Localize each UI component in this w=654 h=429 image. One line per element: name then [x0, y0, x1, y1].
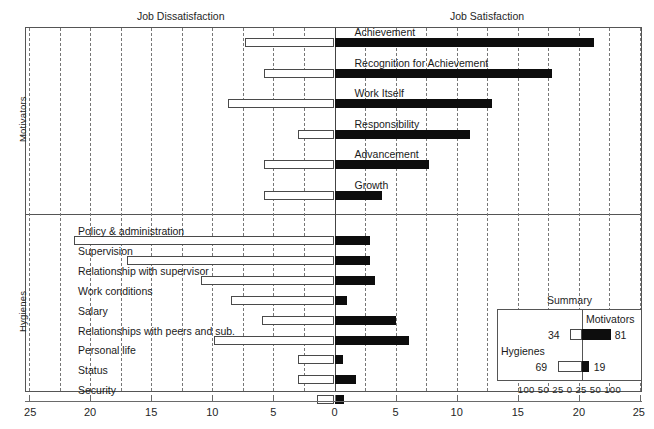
gridline [121, 28, 122, 391]
summary-bar-hygienes-satisfaction [582, 361, 589, 372]
x-axis-tick [396, 395, 397, 401]
bar-category-label: Advancement [355, 148, 419, 160]
bar-category-label: Work conditions [78, 285, 153, 297]
summary-scale-labels: 100 50 25 0 25 50 100 [518, 384, 622, 395]
bar-satisfaction [335, 276, 375, 285]
x-axis-tick [335, 395, 336, 401]
x-axis-tick-label: 5 [270, 406, 276, 418]
x-axis-line [25, 401, 642, 402]
gridline [29, 28, 30, 391]
bar-satisfaction [335, 355, 344, 364]
x-axis-tick-label: 5 [393, 406, 399, 418]
bar-satisfaction [335, 236, 370, 245]
bar-satisfaction [335, 316, 396, 325]
bar-category-label: Policy & administration [78, 225, 184, 237]
bar-dissatisfaction [317, 395, 334, 404]
summary-value-hygienes-satisfaction: 19 [594, 361, 606, 373]
x-axis-tick-label: 15 [512, 406, 524, 418]
x-axis-tick-label: 10 [206, 406, 218, 418]
x-axis-tick-label: 20 [84, 406, 96, 418]
bar-dissatisfaction [298, 130, 335, 139]
x-axis-tick-label: 10 [451, 406, 463, 418]
gridline [487, 28, 488, 391]
summary-value-motivators-dissatisfaction: 34 [548, 329, 560, 341]
x-axis-tick-label: 25 [24, 406, 36, 418]
bar-dissatisfaction [298, 375, 335, 384]
bar-category-label: Status [78, 364, 108, 376]
x-axis-tick [29, 395, 30, 401]
bar-dissatisfaction [127, 256, 335, 265]
bar-dissatisfaction [74, 236, 334, 245]
gridline [457, 28, 458, 391]
gridline [182, 28, 183, 391]
gridline [426, 28, 427, 391]
bar-satisfaction [335, 395, 345, 404]
bar-category-label: Recognition for Achievement [355, 57, 489, 69]
bar-satisfaction [335, 38, 594, 47]
bar-category-label: Supervision [78, 245, 133, 257]
bar-satisfaction [335, 130, 471, 139]
bar-category-label: Growth [355, 179, 389, 191]
x-axis-tick-label: 25 [633, 406, 645, 418]
bar-satisfaction [335, 69, 553, 78]
chart-root: Job DissatisfactionJob SatisfactionMotiv… [0, 0, 654, 429]
x-axis-tick [640, 395, 641, 401]
summary-label-hygienes: Hygienes [501, 345, 545, 357]
bar-satisfaction [335, 160, 429, 169]
summary-bar-motivators-dissatisfaction [570, 329, 582, 340]
x-axis-tick [273, 395, 274, 401]
x-axis-tick-label: 20 [573, 406, 585, 418]
x-axis-tick [518, 395, 519, 401]
bar-dissatisfaction [264, 191, 335, 200]
bar-category-label: Relationship with supervisor [78, 265, 209, 277]
bar-category-label: Achievement [355, 26, 416, 38]
summary-bar-motivators-satisfaction [582, 329, 611, 340]
bar-category-label: Salary [78, 305, 108, 317]
caption-job-satisfaction: Job Satisfaction [450, 10, 524, 22]
x-axis-tick [212, 395, 213, 401]
bar-dissatisfaction [298, 355, 335, 364]
gridline [90, 28, 91, 391]
x-axis-tick [579, 395, 580, 401]
summary-bar-hygienes-dissatisfaction [558, 361, 582, 372]
x-axis-tick-label: 15 [145, 406, 157, 418]
group-label-hygienes: Hygienes [17, 291, 28, 332]
gridline [151, 28, 152, 391]
bar-category-label: Personal life [78, 344, 136, 356]
group-label-motivators: Motivators [17, 96, 28, 142]
summary-label-motivators: Motivators [586, 313, 634, 325]
bar-category-label: Responsibility [355, 118, 420, 130]
bar-dissatisfaction [214, 336, 335, 345]
bar-dissatisfaction [264, 160, 335, 169]
group-divider [25, 214, 642, 215]
bar-satisfaction [335, 336, 410, 345]
x-axis-tick-label: 0 [331, 406, 337, 418]
x-axis-tick [90, 395, 91, 401]
x-axis-tick [457, 395, 458, 401]
bar-dissatisfaction [201, 276, 334, 285]
bar-category-label: Work Itself [355, 87, 404, 99]
caption-job-dissatisfaction: Job Dissatisfaction [137, 10, 225, 22]
summary-value-motivators-satisfaction: 81 [615, 329, 627, 341]
bar-dissatisfaction [228, 99, 334, 108]
bar-category-label: Security [78, 384, 116, 396]
summary-title: Summary [547, 294, 592, 306]
gridline [60, 28, 61, 391]
bar-dissatisfaction [264, 69, 335, 78]
bar-satisfaction [335, 296, 347, 305]
bar-satisfaction [335, 191, 383, 200]
x-axis-tick [151, 395, 152, 401]
summary-value-hygienes-dissatisfaction: 69 [536, 361, 548, 373]
bar-satisfaction [335, 375, 357, 384]
bar-dissatisfaction [245, 38, 334, 47]
bar-category-label: Relationships with peers and sub. [78, 325, 235, 337]
bar-satisfaction [335, 99, 493, 108]
bar-satisfaction [335, 256, 370, 265]
bar-dissatisfaction [231, 296, 335, 305]
bar-dissatisfaction [262, 316, 334, 325]
